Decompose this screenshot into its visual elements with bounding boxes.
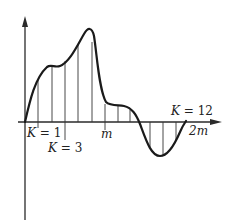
- label-k1: K = 1: [26, 126, 61, 140]
- function-partition-diagram: K = 1 K = 3 m K = 12 2m: [0, 0, 227, 224]
- y-axis-arrow-icon: [22, 16, 28, 27]
- label-m: m: [101, 127, 112, 141]
- label-k3: K = 3: [47, 141, 82, 155]
- label-k12: K = 12: [170, 104, 213, 118]
- x-axis-arrow-icon: [210, 119, 222, 125]
- label-2m: 2m: [188, 124, 208, 138]
